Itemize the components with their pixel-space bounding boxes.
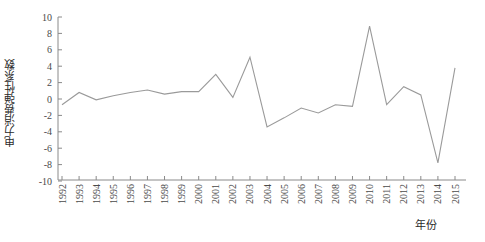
x-tick-label: 2009 bbox=[347, 184, 358, 204]
y-axis: 1086420-2-4-6-8-10 bbox=[39, 12, 62, 187]
x-tick-label: 1992 bbox=[57, 184, 68, 204]
y-tick-label: 2 bbox=[47, 77, 52, 88]
x-tick-label: 1999 bbox=[176, 184, 187, 204]
y-tick-label: 8 bbox=[47, 28, 52, 39]
x-tick-label: 2012 bbox=[398, 184, 409, 204]
x-tick-label: 1994 bbox=[91, 184, 102, 204]
y-tick-label: 4 bbox=[47, 61, 52, 72]
x-tick-label: 1993 bbox=[74, 184, 85, 204]
x-tick-label: 2003 bbox=[244, 184, 255, 204]
x-tick-label: 2004 bbox=[262, 184, 273, 204]
x-tick-label: 1995 bbox=[108, 184, 119, 204]
x-tick-label: 2008 bbox=[330, 184, 341, 204]
y-tick-label: -2 bbox=[44, 110, 52, 121]
y-tick-label: -4 bbox=[44, 126, 52, 137]
x-tick-label: 2000 bbox=[193, 184, 204, 204]
series-line bbox=[62, 26, 455, 163]
x-tick-label: 2010 bbox=[364, 184, 375, 204]
x-tick-label: 1998 bbox=[159, 184, 170, 204]
y-tick-label: -6 bbox=[44, 143, 52, 154]
x-tick-label: 1996 bbox=[125, 184, 136, 204]
y-tick-label: -10 bbox=[39, 176, 52, 187]
y-tick-label: 10 bbox=[42, 12, 52, 23]
x-tick-label: 2001 bbox=[210, 184, 221, 204]
x-tick-label: 2002 bbox=[227, 184, 238, 204]
x-axis-label: 年份 bbox=[415, 216, 437, 232]
x-tick-label: 2011 bbox=[381, 184, 392, 204]
x-tick-label: 2007 bbox=[313, 184, 324, 204]
y-tick-label: 6 bbox=[47, 44, 52, 55]
x-tick-label: 2005 bbox=[279, 184, 290, 204]
y-tick-label: 0 bbox=[47, 94, 52, 105]
x-tick-label: 2013 bbox=[415, 184, 426, 204]
x-axis: 1992199319941995199619971998199920002001… bbox=[57, 176, 467, 204]
data-series-group bbox=[62, 26, 455, 163]
x-tick-label: 1997 bbox=[142, 184, 153, 204]
x-tick-label: 2006 bbox=[296, 184, 307, 204]
line-chart-plot: 1086420-2-4-6-8-10 199219931994199519961… bbox=[0, 0, 485, 242]
x-tick-label: 2014 bbox=[432, 184, 443, 204]
x-tick-label: 2015 bbox=[450, 184, 461, 204]
chart-container: 电力消费弹性系数 1086420-2-4-6-8-10 199219931994… bbox=[0, 0, 485, 242]
y-tick-label: -8 bbox=[44, 159, 52, 170]
